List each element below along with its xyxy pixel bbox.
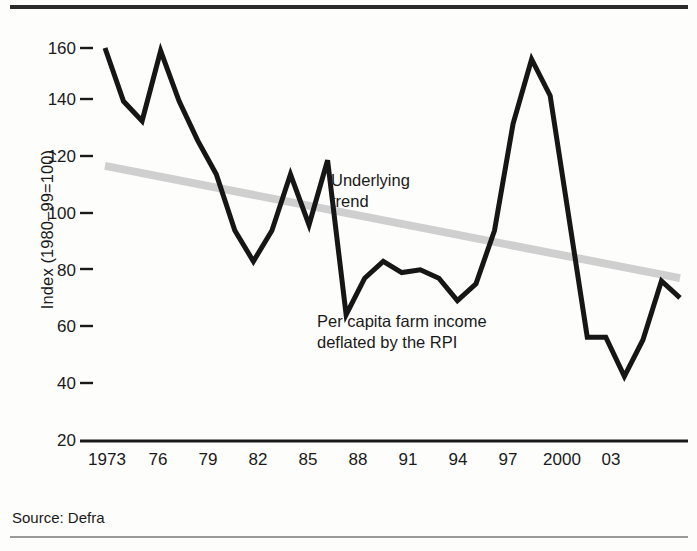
annotation-series-description: Per capita farm income deflated by the R… bbox=[317, 311, 487, 353]
figure-panel: Index (1980–99=100) 160 140 120 100 80 6… bbox=[0, 0, 697, 551]
annotation-underlying-trend: Underlying trend bbox=[331, 170, 410, 212]
y-axis-ticks bbox=[80, 48, 93, 383]
chart-plot-area bbox=[0, 0, 697, 551]
source-note: Source: Defra bbox=[12, 509, 105, 526]
